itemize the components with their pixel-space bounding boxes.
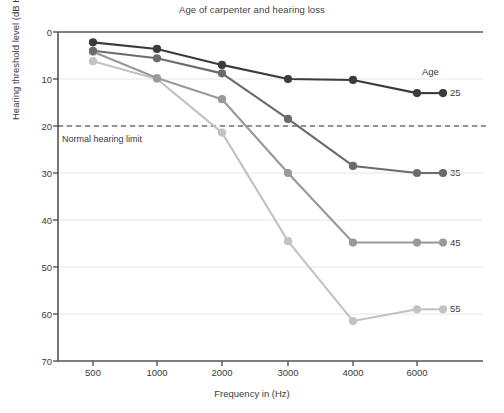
data-point-45-3000 xyxy=(284,169,292,177)
data-point-25-1000 xyxy=(153,45,161,53)
series-line-55 xyxy=(93,61,417,321)
series-endcap-45 xyxy=(439,238,447,246)
data-point-55-500 xyxy=(89,57,97,65)
data-point-35-1000 xyxy=(153,54,161,62)
data-point-45-4000 xyxy=(349,238,357,246)
series-line-25 xyxy=(93,42,417,93)
series-endcap-35 xyxy=(439,169,447,177)
data-point-35-2000 xyxy=(218,69,226,77)
data-point-55-4000 xyxy=(349,317,357,325)
data-point-55-3000 xyxy=(284,237,292,245)
data-point-55-2000 xyxy=(218,128,226,136)
series-line-35 xyxy=(93,51,417,173)
series-line-45 xyxy=(93,52,417,243)
series-endcap-55 xyxy=(439,305,447,313)
series-endcap-25 xyxy=(439,89,447,97)
data-point-35-4000 xyxy=(349,162,357,170)
data-point-45-1000 xyxy=(153,74,161,82)
data-point-35-500 xyxy=(89,47,97,55)
data-point-35-3000 xyxy=(284,115,292,123)
data-point-45-2000 xyxy=(218,95,226,103)
data-point-25-3000 xyxy=(284,75,292,83)
data-point-25-2000 xyxy=(218,61,226,69)
data-point-25-4000 xyxy=(349,76,357,84)
chart-container: Age of carpenter and hearing loss Hearin… xyxy=(0,0,504,413)
plot-area xyxy=(0,0,504,413)
data-point-25-500 xyxy=(89,38,97,46)
